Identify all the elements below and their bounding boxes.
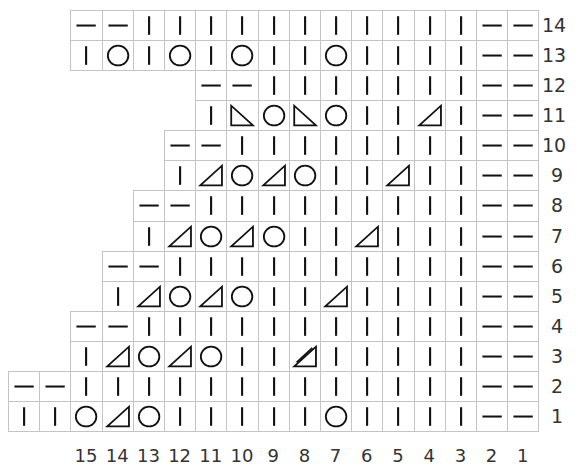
purl-symbol-icon	[71, 11, 101, 40]
row-number: 10	[542, 130, 572, 160]
knit-symbol-icon	[383, 71, 413, 100]
purl-symbol-icon	[103, 312, 133, 341]
chart-cell	[351, 160, 383, 191]
chart-cell	[445, 10, 477, 41]
ssk-decrease-icon	[227, 101, 257, 130]
purl-symbol-icon	[508, 161, 538, 190]
chart-cell	[133, 311, 165, 342]
k2tog-decrease-icon	[134, 282, 164, 311]
yarn-over-icon	[290, 161, 320, 190]
yarn-over-icon	[259, 101, 289, 130]
chart-cell	[164, 40, 196, 71]
chart-cell	[445, 130, 477, 161]
knit-symbol-icon	[415, 312, 445, 341]
row-number: 5	[542, 281, 572, 311]
purl-symbol-icon	[165, 191, 195, 220]
chart-cell	[258, 10, 290, 41]
knit-symbol-icon	[321, 252, 351, 281]
chart-cell	[320, 401, 352, 432]
knit-symbol-icon	[415, 161, 445, 190]
chart-cell	[351, 40, 383, 71]
chart-cell	[226, 130, 258, 161]
k3tog-decrease-icon	[290, 342, 320, 371]
purl-symbol-icon	[134, 191, 164, 220]
chart-cell	[70, 40, 102, 71]
knit-symbol-icon	[259, 41, 289, 70]
knit-symbol-icon	[227, 372, 257, 401]
chart-cell	[102, 251, 134, 282]
chart-cell	[382, 70, 414, 101]
chart-cell	[289, 160, 321, 191]
chart-cell	[351, 10, 383, 41]
knit-symbol-icon	[415, 282, 445, 311]
knit-symbol-icon	[446, 312, 476, 341]
purl-symbol-icon	[71, 312, 101, 341]
chart-cell	[476, 130, 508, 161]
chart-cell	[351, 311, 383, 342]
k2tog-decrease-icon	[415, 101, 445, 130]
knit-symbol-icon	[383, 342, 413, 371]
chart-cell	[133, 251, 165, 282]
purl-symbol-icon	[196, 71, 226, 100]
row-number: 9	[542, 160, 572, 190]
knit-symbol-icon	[415, 342, 445, 371]
chart-cell	[164, 160, 196, 191]
chart-cell	[382, 401, 414, 432]
chart-cell	[258, 251, 290, 282]
knit-symbol-icon	[259, 131, 289, 160]
chart-cell	[164, 281, 196, 312]
knit-symbol-icon	[352, 312, 382, 341]
chart-cell	[289, 221, 321, 252]
chart-cell	[226, 401, 258, 432]
chart-cell	[414, 371, 446, 402]
knit-symbol-icon	[290, 372, 320, 401]
chart-cell	[414, 251, 446, 282]
chart-cell	[507, 371, 539, 402]
knit-symbol-icon	[290, 252, 320, 281]
knit-symbol-icon	[321, 161, 351, 190]
chart-cell	[507, 251, 539, 282]
chart-cell	[476, 371, 508, 402]
knit-symbol-icon	[383, 191, 413, 220]
purl-symbol-icon	[477, 282, 507, 311]
chart-cell	[414, 311, 446, 342]
chart-cell	[289, 341, 321, 372]
chart-cell	[226, 311, 258, 342]
knit-symbol-icon	[227, 191, 257, 220]
chart-cell	[70, 401, 102, 432]
chart-cell	[507, 401, 539, 432]
chart-cell	[195, 190, 227, 221]
knit-symbol-icon	[259, 312, 289, 341]
chart-cell	[382, 10, 414, 41]
column-number: 4	[414, 445, 445, 466]
chart-cell	[445, 341, 477, 372]
yarn-over-icon	[321, 402, 351, 431]
chart-cell	[226, 341, 258, 372]
column-number: 3	[445, 445, 476, 466]
chart-cell	[133, 341, 165, 372]
column-number: 9	[258, 445, 289, 466]
chart-cell	[507, 100, 539, 131]
chart-cell	[320, 221, 352, 252]
column-number: 11	[195, 445, 226, 466]
knit-symbol-icon	[196, 41, 226, 70]
column-number: 7	[320, 445, 351, 466]
chart-cell	[351, 130, 383, 161]
chart-cell	[258, 190, 290, 221]
chart-cell	[226, 221, 258, 252]
purl-symbol-icon	[134, 252, 164, 281]
chart-cell	[445, 70, 477, 101]
knit-symbol-icon	[446, 372, 476, 401]
chart-cell	[289, 40, 321, 71]
knit-symbol-icon	[259, 372, 289, 401]
k2tog-decrease-icon	[352, 222, 382, 251]
knit-symbol-icon	[383, 222, 413, 251]
row-number: 4	[542, 311, 572, 341]
knit-symbol-icon	[352, 282, 382, 311]
purl-symbol-icon	[477, 222, 507, 251]
chart-cell	[445, 371, 477, 402]
chart-cell	[195, 281, 227, 312]
chart-cell	[133, 281, 165, 312]
chart-cell	[102, 401, 134, 432]
chart-cell	[382, 130, 414, 161]
